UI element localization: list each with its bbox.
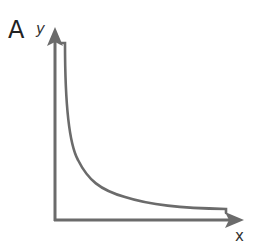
inverse-curve: [60, 43, 226, 213]
inverse-curve-diagram: [0, 0, 260, 249]
